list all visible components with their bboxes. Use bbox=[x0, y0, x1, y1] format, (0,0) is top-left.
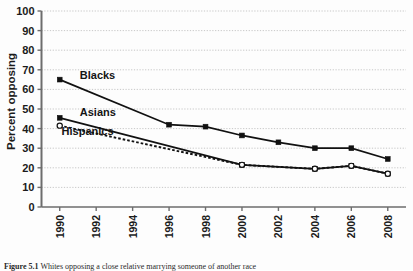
data-point-blacks bbox=[203, 124, 208, 129]
data-point-blacks bbox=[57, 77, 62, 82]
y-tick-label: 100 bbox=[16, 5, 34, 17]
data-point-blacks bbox=[385, 157, 390, 162]
data-point-blacks bbox=[167, 122, 172, 127]
series-inline-labels: BlacksAsiansHispanics bbox=[62, 69, 116, 138]
figure-caption-body: Whites opposing a close relative marryin… bbox=[40, 262, 256, 271]
x-tick-label: 1990 bbox=[54, 215, 66, 239]
series-label-blacks: Blacks bbox=[80, 69, 115, 81]
y-tick-label: 10 bbox=[22, 181, 34, 193]
x-tick-label: 2006 bbox=[345, 215, 357, 239]
y-tick-label: 50 bbox=[22, 103, 34, 115]
data-point-blacks bbox=[276, 140, 281, 145]
series-label-hispanics: Hispanics bbox=[62, 125, 114, 137]
y-axis-title: Percent opposing bbox=[5, 53, 17, 150]
x-axis-ticks: 1990199219941996199820002002200420062008 bbox=[54, 207, 394, 238]
y-tick-label: 90 bbox=[22, 25, 34, 37]
y-tick-label: 20 bbox=[22, 162, 34, 174]
series-label-asians: Asians bbox=[80, 106, 116, 118]
y-tick-label: 0 bbox=[28, 201, 34, 213]
figure-caption-prefix: Figure 5.1 bbox=[4, 262, 39, 271]
data-point-blacks bbox=[312, 146, 317, 151]
y-tick-label: 30 bbox=[22, 142, 34, 154]
data-point-hispanics bbox=[239, 162, 244, 167]
y-tick-label: 60 bbox=[22, 83, 34, 95]
data-point-blacks bbox=[349, 146, 354, 151]
figure-caption: Figure 5.1 Whites opposing a close relat… bbox=[4, 262, 409, 271]
data-point-hispanics bbox=[385, 171, 390, 176]
data-point-blacks bbox=[240, 133, 245, 138]
data-point-hispanics bbox=[312, 166, 317, 171]
y-tick-label: 40 bbox=[22, 123, 34, 135]
y-tick-label: 70 bbox=[22, 64, 34, 76]
x-tick-label: 1996 bbox=[163, 215, 175, 239]
x-tick-label: 2002 bbox=[272, 215, 284, 239]
line-chart: 0102030405060708090100 19901992199419961… bbox=[0, 0, 413, 258]
x-tick-label: 1998 bbox=[200, 215, 212, 239]
x-tick-label: 1992 bbox=[90, 215, 102, 239]
x-tick-label: 2008 bbox=[382, 215, 394, 239]
series-line-blacks bbox=[60, 80, 388, 159]
x-tick-label: 2000 bbox=[236, 215, 248, 239]
x-tick-label: 1994 bbox=[127, 215, 139, 239]
y-tick-label: 80 bbox=[22, 44, 34, 56]
x-tick-label: 2004 bbox=[309, 215, 321, 239]
data-point-asians bbox=[57, 115, 62, 120]
data-point-hispanics bbox=[349, 163, 354, 168]
y-axis-ticks: 0102030405060708090100 bbox=[16, 5, 41, 213]
